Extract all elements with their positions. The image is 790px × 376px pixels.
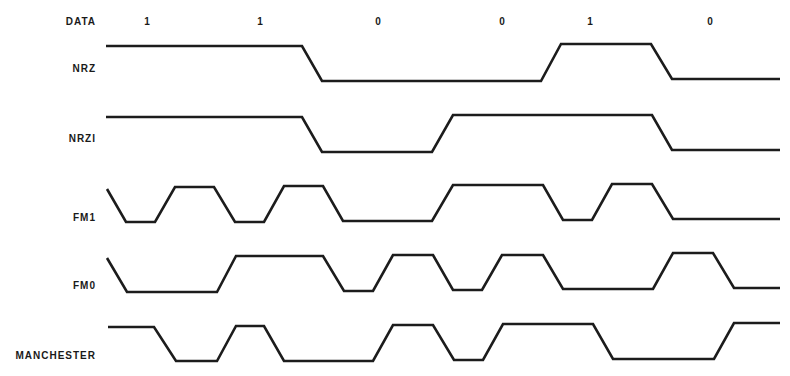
waveform-canvas	[0, 0, 790, 376]
nrzi-waveform	[106, 115, 780, 152]
nrz-waveform	[106, 44, 780, 81]
fm0-waveform	[107, 253, 780, 292]
manchester-waveform	[108, 323, 780, 361]
fm1-waveform	[107, 184, 780, 222]
